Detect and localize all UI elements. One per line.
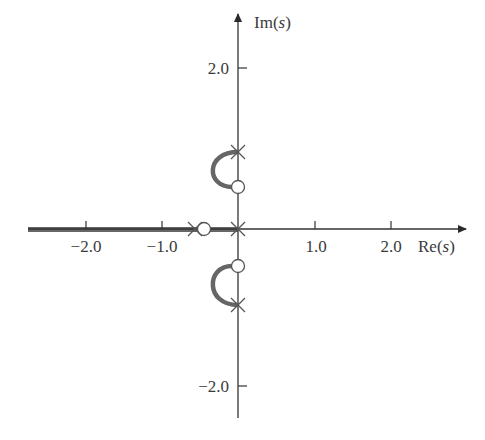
y-axis-label: Im(s)	[254, 13, 291, 32]
x-tick-label: −1.0	[147, 237, 178, 256]
x-tick-label: −2.0	[71, 237, 102, 256]
zero-upper-marker	[232, 181, 245, 194]
zero-lower-marker	[232, 260, 245, 273]
y-tick-label: −2.0	[198, 377, 229, 396]
x-tick-label: 2.0	[380, 237, 401, 256]
y-tick-label: 2.0	[208, 59, 229, 78]
root-locus-plot: −2.0 −1.0 1.0 2.0 2.0 −2.0 Re(s) Im(s)	[0, 0, 485, 440]
x-tick-label: 1.0	[305, 237, 326, 256]
x-axis-label: Re(s)	[418, 237, 455, 256]
